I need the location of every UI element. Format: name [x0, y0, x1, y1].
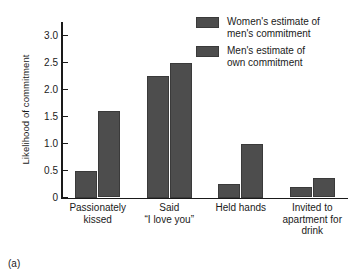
- figure-caption: (a): [8, 258, 20, 269]
- bar: [147, 76, 169, 198]
- legend-item: Women's estimate ofmen's commitment: [196, 16, 356, 39]
- legend-swatch: [196, 46, 219, 57]
- y-tick-row: 0.5: [0, 166, 58, 176]
- category-label: Invited toapartment fordrink: [277, 202, 349, 237]
- category-label-line: “I love you”: [134, 214, 206, 226]
- bar: [98, 111, 120, 197]
- category-label: Passionatelykissed: [62, 202, 134, 225]
- y-tick-row: 3.0: [0, 31, 58, 41]
- legend-label: Women's estimate ofmen's commitment: [227, 16, 320, 39]
- category-label-line: drink: [277, 225, 349, 237]
- y-tick-label: 3.0: [18, 31, 58, 41]
- bar: [313, 178, 335, 198]
- bar: [218, 184, 240, 198]
- category-label-line: Invited to: [277, 202, 349, 214]
- y-tick-row: 2.0: [0, 85, 58, 95]
- bar: [241, 144, 263, 198]
- y-tick-mark: [62, 35, 68, 37]
- y-tick-label: 1.5: [18, 112, 58, 122]
- y-tick-label: 0.5: [18, 166, 58, 176]
- y-tick-mark: [62, 197, 68, 199]
- y-tick-label: 1.0: [18, 139, 58, 149]
- category-label: Held hands: [205, 202, 277, 214]
- legend-label-line: Women's estimate of: [227, 16, 320, 28]
- y-tick-label: 0: [18, 193, 58, 203]
- category-label-line: Held hands: [205, 202, 277, 214]
- y-tick-row: 1.0: [0, 139, 58, 149]
- legend-label-line: men's commitment: [227, 28, 320, 40]
- y-tick-mark: [62, 116, 68, 118]
- category-label-line: Passionately: [62, 202, 134, 214]
- legend-swatch: [196, 17, 219, 28]
- y-axis-line: [61, 22, 63, 199]
- legend-label-line: Men's estimate of: [227, 45, 305, 57]
- y-tick-mark: [62, 170, 68, 172]
- chart-figure: Likelihood of commitment 00.51.01.52.02.…: [0, 0, 360, 280]
- bar: [75, 171, 97, 198]
- y-tick-label: 2.5: [18, 58, 58, 68]
- y-tick-row: 2.5: [0, 58, 58, 68]
- legend-label: Men's estimate ofown commitment: [227, 45, 305, 68]
- legend-label-line: own commitment: [227, 57, 305, 69]
- bar: [290, 187, 312, 198]
- category-label-line: kissed: [62, 214, 134, 226]
- bar: [170, 63, 192, 198]
- category-label-line: Said: [134, 202, 206, 214]
- y-tick-label: 2.0: [18, 85, 58, 95]
- x-axis-line: [61, 198, 348, 200]
- category-label: Said“I love you”: [134, 202, 206, 225]
- y-tick-mark: [62, 143, 68, 145]
- legend-item: Men's estimate ofown commitment: [196, 45, 356, 68]
- y-tick-row: 0: [0, 193, 58, 203]
- y-tick-mark: [62, 62, 68, 64]
- y-tick-row: 1.5: [0, 112, 58, 122]
- chart-legend: Women's estimate ofmen's commitmentMen's…: [196, 16, 356, 74]
- y-tick-mark: [62, 89, 68, 91]
- category-label-line: apartment for: [277, 214, 349, 226]
